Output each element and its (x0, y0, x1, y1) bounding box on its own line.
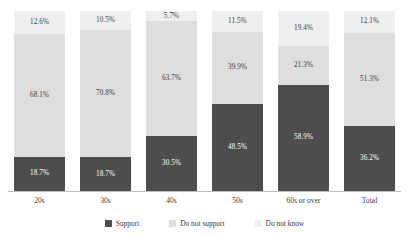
bar-column[interactable]: 12.6%68.1%18.7% (14, 11, 65, 191)
bar-segment[interactable]: 63.7% (146, 21, 197, 136)
legend-item[interactable]: Do not support (169, 219, 224, 228)
x-axis-tick-label: 40s (146, 194, 197, 210)
bar-segment[interactable]: 10.5% (80, 11, 131, 30)
legend-label: Do not know (266, 219, 305, 228)
chart-title-clipped (6, 0, 126, 3)
bar-segment[interactable]: 36.2% (344, 126, 395, 191)
bar-segment[interactable]: 18.7% (14, 157, 65, 191)
bar-segment-value-label: 21.3% (294, 62, 313, 69)
x-axis-tick-label: 50s (212, 194, 263, 210)
bar-segment[interactable]: 48.5% (212, 104, 263, 191)
bar-segment[interactable]: 21.3% (278, 46, 329, 84)
bar-segment-value-label: 70.8% (96, 90, 115, 97)
bar-segment-value-label: 10.5% (96, 17, 115, 24)
x-axis-tick-label: 60s or over (278, 194, 329, 210)
bar-segment-value-label: 30.5% (162, 160, 181, 167)
bar-segment[interactable]: 5.7% (146, 11, 197, 21)
bar-segment[interactable]: 18.7% (80, 157, 131, 191)
bar-segment[interactable]: 39.9% (212, 32, 263, 104)
legend-label: Do not support (180, 219, 224, 228)
bar-column[interactable]: 5.7%63.7%30.5% (146, 11, 197, 191)
bar-segment-value-label: 68.1% (30, 92, 49, 99)
x-axis-tick-label: 30s (80, 194, 131, 210)
bar-segment-value-label: 12.1% (360, 18, 379, 25)
bar-segment[interactable]: 12.6% (14, 11, 65, 34)
plot-area: 12.6%68.1%18.7%10.5%70.8%18.7%5.7%63.7%3… (0, 11, 409, 191)
legend-item[interactable]: Do not know (255, 219, 305, 228)
bar-column[interactable]: 12.1%51.3%36.2% (344, 11, 395, 191)
x-axis-tick-label: Total (344, 194, 395, 210)
bar-segment[interactable]: 30.5% (146, 136, 197, 191)
legend-swatch-icon (105, 220, 112, 227)
x-axis-line (8, 191, 401, 192)
legend-label: Support (116, 219, 139, 228)
bar-segment[interactable]: 68.1% (14, 34, 65, 157)
bar-segment[interactable]: 12.1% (344, 11, 395, 33)
bar-segment-value-label: 51.3% (360, 76, 379, 83)
bar-segment-value-label: 63.7% (162, 75, 181, 82)
bar-column[interactable]: 10.5%70.8%18.7% (80, 11, 131, 191)
bar-segment-value-label: 12.6% (30, 19, 49, 26)
bar-segment-value-label: 18.7% (96, 171, 115, 178)
bar-segment[interactable]: 51.3% (344, 33, 395, 126)
bar-segment-value-label: 11.5% (228, 18, 247, 25)
chart-legend: SupportDo not supportDo not know (0, 216, 409, 230)
bar-segment[interactable]: 11.5% (212, 11, 263, 32)
bar-segment-value-label: 5.7% (164, 13, 179, 20)
bar-group: 12.6%68.1%18.7%10.5%70.8%18.7%5.7%63.7%3… (0, 11, 409, 191)
stacked-bar-chart: 12.6%68.1%18.7%10.5%70.8%18.7%5.7%63.7%3… (0, 0, 409, 235)
bar-segment-value-label: 58.9% (294, 134, 313, 141)
bar-segment-value-label: 19.4% (294, 25, 313, 32)
legend-swatch-icon (255, 220, 262, 227)
bar-segment[interactable]: 58.9% (278, 85, 329, 191)
bar-segment-value-label: 36.2% (360, 155, 379, 162)
bar-column[interactable]: 11.5%39.9%48.5% (212, 11, 263, 191)
legend-swatch-icon (169, 220, 176, 227)
bar-segment-value-label: 48.5% (228, 144, 247, 151)
bar-segment[interactable]: 19.4% (278, 11, 329, 46)
legend-item[interactable]: Support (105, 219, 139, 228)
bar-segment-value-label: 39.9% (228, 64, 247, 71)
bar-column[interactable]: 19.4%21.3%58.9% (278, 11, 329, 191)
bar-segment-value-label: 18.7% (30, 170, 49, 177)
x-axis-tick-label: 20s (14, 194, 65, 210)
bar-segment[interactable]: 70.8% (80, 30, 131, 157)
x-axis-category-labels: 20s30s40s50s60s or overTotal (0, 194, 409, 210)
